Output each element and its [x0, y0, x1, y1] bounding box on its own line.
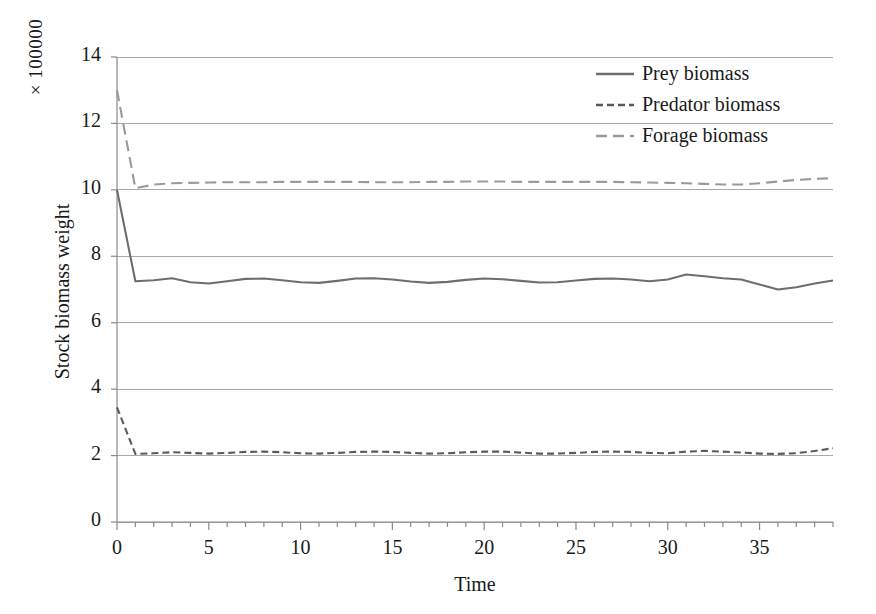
x-tick-label-25: 25: [553, 536, 599, 559]
legend-label: Predator biomass: [642, 93, 780, 116]
legend-item-prey-biomass: Prey biomass: [595, 58, 845, 89]
chart-figure: × 100000 Stock biomass weight Time 02468…: [0, 0, 876, 614]
x-tick-label-5: 5: [186, 536, 232, 559]
y-tick-label-2: 2: [55, 442, 101, 465]
x-tick-label-10: 10: [278, 536, 324, 559]
y-tick-label-0: 0: [55, 508, 101, 531]
legend-label: Prey biomass: [642, 62, 749, 85]
legend-label: Forage biomass: [642, 124, 768, 147]
x-tick-label-30: 30: [645, 536, 691, 559]
legend-line-sample: [595, 130, 635, 142]
y-tick-label-6: 6: [55, 309, 101, 332]
y-axis-multiplier-label: × 100000: [25, 0, 47, 117]
legend-line-sample: [595, 68, 635, 80]
y-tick-label-14: 14: [55, 43, 101, 66]
legend-item-forage-biomass: Forage biomass: [595, 120, 845, 151]
series-line-prey-biomass: [117, 190, 833, 290]
legend-item-predator-biomass: Predator biomass: [595, 89, 845, 120]
y-tick-label-12: 12: [55, 109, 101, 132]
x-tick-label-35: 35: [737, 536, 783, 559]
y-tick-label-8: 8: [55, 242, 101, 265]
x-tick-label-0: 0: [94, 536, 140, 559]
x-tick-label-20: 20: [461, 536, 507, 559]
chart-legend: Prey biomassPredator biomassForage bioma…: [595, 58, 845, 151]
x-tick-label-15: 15: [369, 536, 415, 559]
y-axis-title: Stock biomass weight: [51, 122, 74, 462]
series-line-predator-biomass: [117, 407, 833, 454]
legend-line-sample: [595, 99, 635, 111]
y-tick-label-10: 10: [55, 176, 101, 199]
y-tick-label-4: 4: [55, 375, 101, 398]
x-axis-title: Time: [117, 573, 833, 596]
